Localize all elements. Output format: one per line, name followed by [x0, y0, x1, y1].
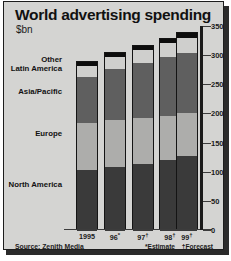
bar-segment-asia-pacific	[105, 69, 125, 120]
y-tick-50	[203, 201, 211, 202]
bar-segment-north-america	[177, 156, 197, 231]
footnotes: *Estimate †Forecast	[140, 243, 213, 250]
bar-segment-latin-america	[77, 66, 97, 76]
bar-segment-north-america	[133, 164, 153, 231]
y-tick-250	[203, 84, 211, 85]
y-tick-100	[203, 172, 211, 173]
chart-title: World advertising spending	[15, 6, 211, 24]
category-label-group: Other Latin America Asia/Pacific Europe …	[4, 26, 62, 230]
footnote-estimate: *Estimate	[145, 243, 175, 250]
bar-segment-asia-pacific	[177, 53, 197, 113]
category-label-latin-america: Latin America	[4, 65, 62, 74]
bar-segment-asia-pacific	[77, 77, 97, 124]
bar-segment-latin-america	[105, 57, 125, 69]
bar-segment-asia-pacific	[133, 63, 153, 118]
source-note: Source: Zenith Media	[15, 243, 84, 250]
y-tick-label-50: 50	[211, 196, 219, 205]
bar-segment-north-america	[105, 167, 125, 231]
bar-segment-europe	[105, 120, 125, 167]
bar-segment-europe	[177, 113, 197, 157]
bar-segment-latin-america	[133, 50, 153, 63]
y-tick-200	[203, 113, 211, 114]
bar-97	[132, 45, 154, 230]
y-tick-150	[203, 143, 211, 144]
y-tick-label-200: 200	[211, 109, 224, 118]
y-tick-300	[203, 55, 211, 56]
bar-segment-north-america	[77, 170, 97, 231]
bar-96	[104, 52, 126, 230]
y-tick-label-250: 250	[211, 80, 224, 89]
y-tick-label-0: 0	[211, 226, 215, 235]
category-label-asia-pacific: Asia/Pacific	[4, 88, 62, 97]
bar-segment-latin-america	[177, 38, 197, 53]
y-tick-0	[203, 230, 211, 231]
footnote-forecast: †Forecast	[182, 243, 213, 250]
y-tick-label-150: 150	[211, 138, 224, 147]
x-label-99: 99†	[172, 232, 202, 242]
chart-panel: World advertising spending $bn Other Lat…	[3, 1, 224, 250]
bar-segment-europe	[133, 118, 153, 163]
y-tick-label-300: 300	[211, 51, 224, 60]
bar-99	[176, 32, 198, 230]
y-axis	[200, 26, 203, 230]
x-label-97: 97†	[128, 232, 158, 242]
plot-area	[64, 26, 198, 230]
x-label-96: 96*	[100, 232, 130, 242]
chart-figure: World advertising spending $bn Other Lat…	[0, 0, 231, 261]
x-label-1995: 1995	[72, 232, 102, 241]
bar-1995	[76, 61, 98, 230]
bar-segment-europe	[77, 123, 97, 170]
category-label-north-america: North America	[4, 181, 62, 190]
y-tick-label-100: 100	[211, 167, 224, 176]
axis-baseline	[64, 229, 212, 230]
y-tick-350	[203, 26, 211, 27]
y-tick-label-350: 350	[211, 22, 224, 31]
category-label-europe: Europe	[4, 130, 62, 139]
